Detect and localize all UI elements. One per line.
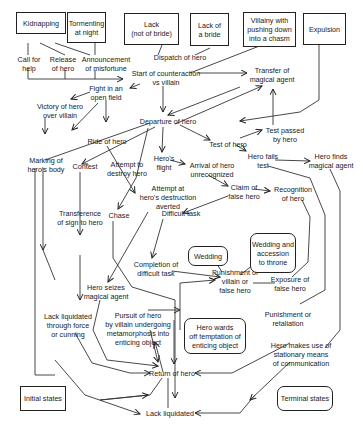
node-lack-liquidated: Lack liquidated <box>140 409 200 418</box>
initial-box-expulsion: Expulsion <box>303 13 346 45</box>
node-completion-task: Completion of difficult task <box>130 260 182 278</box>
terminal-box-hero-wards: Hero wards off temptation of enticing ob… <box>184 318 246 354</box>
node-dispatch: Dispatch of hero <box>148 53 212 62</box>
node-claim-false-hero: Claim of false hero <box>226 183 262 201</box>
legend-initial-states: Initial states <box>20 386 66 411</box>
node-ride-of-hero: Ride of hero <box>84 137 130 146</box>
plot-graph-diagram: Kidnapping Tormenting at night Lack (not… <box>0 0 363 431</box>
node-exposure-false-hero: Exposure of false hero <box>268 275 312 293</box>
node-arrival-unrecognized: Arrival of hero unrecognized <box>186 161 238 179</box>
box-label: Lack (not of bride) <box>131 20 172 38</box>
node-departure-of-hero: Departure of hero <box>138 117 198 126</box>
legend-label: Terminal states <box>281 394 329 403</box>
node-fight-open-field: Fight in an open field <box>84 84 128 102</box>
legend-terminal-states: Terminal states <box>277 386 333 411</box>
node-attempt-averted: Attempt at hero's destruction averted <box>136 184 200 211</box>
node-lack-liquidated-force: Lack liquidated through force or cunning <box>38 312 98 339</box>
node-test-of-hero: Test of hero <box>207 140 249 149</box>
box-label: Villainy with pushing down into a chasm <box>247 16 291 43</box>
node-hero-seizes-agent: Hero seizes magical agent <box>78 283 134 301</box>
node-announcement: Announcement of misfortune <box>78 55 134 73</box>
node-marking-hero-body: Marking of hero's body <box>25 156 67 174</box>
node-test-passed: Test passed by hero <box>262 126 308 144</box>
node-stationary-means: Hero makes use of stationary means of co… <box>266 341 336 368</box>
initial-box-lack-bride: Lack of a bride <box>190 13 229 46</box>
node-difficult-task: Difficult task <box>156 209 206 218</box>
box-label: Tormenting at night <box>69 19 105 37</box>
box-label: Kidnapping <box>23 19 59 28</box>
box-label: Lack of a bride <box>198 21 221 39</box>
node-recognition: Recognition of hero <box>272 185 314 203</box>
node-call-for-help: Call for help <box>12 55 46 73</box>
box-label: Hero wards off temptation of enticing ob… <box>189 323 240 350</box>
node-release-of-hero: Release of hero <box>46 55 80 73</box>
node-attempt-destroy: Attempt to destroy hero <box>104 160 150 178</box>
initial-box-tormenting: Tormenting at night <box>67 12 106 43</box>
node-punishment-villain: Punishment of villain or false hero <box>212 268 258 295</box>
node-pursuit-of-hero: Pursuit of hero by villain undergoing me… <box>100 311 176 347</box>
initial-box-villainy-chasm: Villainy with pushing down into a chasm <box>243 12 296 47</box>
initial-box-lack-not-bride: Lack (not of bride) <box>124 13 179 45</box>
box-label: Wedding and accession to throne <box>252 240 294 267</box>
node-chase: Chase <box>104 211 134 220</box>
box-label: Wedding <box>194 252 222 261</box>
node-contest: Contest <box>70 162 100 171</box>
box-label: Expulsion <box>309 25 340 34</box>
node-transfer-magical-agent: Transfer of magical agent <box>244 66 300 84</box>
node-punishment-retaliation: Punishment or retaliation <box>260 310 316 328</box>
node-victory-over-villain: Victory of hero over villain <box>30 102 90 120</box>
node-hero-fails-test: Hero fails test <box>246 152 280 170</box>
node-hero-finds-agent: Hero finds magical agent <box>306 152 356 170</box>
node-return-of-hero: Return of hero <box>144 369 200 378</box>
node-heros-flight: Hero's flight <box>150 154 178 172</box>
initial-box-kidnapping: Kidnapping <box>16 12 66 34</box>
node-start-counteraction: Start of counteraction vs villain <box>128 69 204 87</box>
terminal-box-wedding: Wedding <box>188 246 228 266</box>
terminal-box-wedding-throne: Wedding and accession to throne <box>250 233 296 273</box>
node-transference-sign: Transference of sign to hero <box>50 209 110 227</box>
legend-label: Initial states <box>24 394 62 403</box>
